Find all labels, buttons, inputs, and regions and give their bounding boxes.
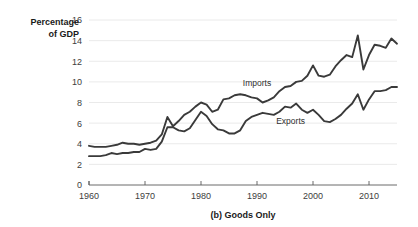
x-tick-label: 1980 — [191, 191, 211, 201]
series-label-imports: Imports — [243, 78, 271, 88]
y-tick-label: 4 — [77, 139, 82, 149]
x-tick-label: 1970 — [135, 191, 155, 201]
y-tick-label: 6 — [77, 119, 82, 129]
y-axis-title-line2: of GDP — [49, 29, 80, 39]
x-tick-label: 2000 — [303, 191, 323, 201]
y-axis-title-line1: Percentage — [30, 17, 79, 27]
y-tick-label: 10 — [72, 77, 82, 87]
y-tick-label: 0 — [77, 180, 82, 190]
x-tick-label: 2010 — [359, 191, 379, 201]
figure-caption: (b) Goods Only — [211, 210, 276, 220]
y-tick-label: 2 — [77, 160, 82, 170]
chart-figure: 0246810121416 196019701980199020002010 I… — [0, 0, 418, 227]
y-tick-label: 8 — [77, 98, 82, 108]
y-tick-label: 12 — [72, 57, 82, 67]
x-tick-label: 1990 — [247, 191, 267, 201]
series-label-exports: Exports — [276, 116, 305, 126]
x-tick-label: 1960 — [79, 191, 99, 201]
